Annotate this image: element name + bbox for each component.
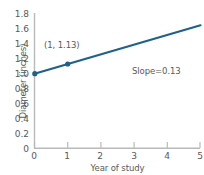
point-annotation-label: (1, 1.13) xyxy=(44,40,79,50)
x-axis-ticks xyxy=(35,142,201,148)
plot-area xyxy=(0,0,204,175)
slope-annotation-label: Slope=0.13 xyxy=(132,66,181,76)
chart-container: Diameter (inches) 1.8 1.6 1.4 1.2 1.0 0.… xyxy=(0,0,204,175)
data-point-marker-1 xyxy=(65,61,70,66)
data-point-marker-0 xyxy=(32,71,37,76)
